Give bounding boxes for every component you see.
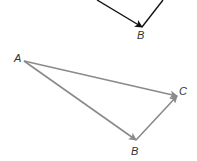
top-label-b: B (137, 29, 144, 41)
vector-bc (136, 96, 177, 140)
label-a: A (13, 52, 21, 64)
top-vector-into-b (97, 0, 142, 27)
vector-ac (24, 61, 177, 96)
vector-diagram: B A C B (0, 0, 197, 161)
top-figure: B (97, 0, 163, 41)
bottom-figure: A C B (13, 52, 187, 157)
vector-ab (24, 61, 136, 140)
label-c: C (179, 85, 187, 97)
top-segment-from-b (142, 0, 163, 27)
label-b: B (131, 145, 138, 157)
